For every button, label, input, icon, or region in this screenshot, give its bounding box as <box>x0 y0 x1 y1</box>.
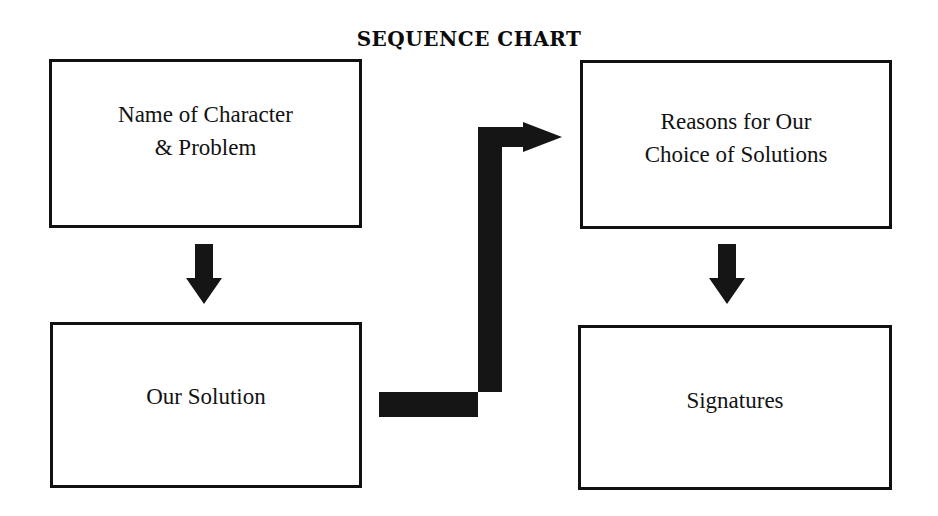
sequence-chart-canvas: SEQUENCE CHART Name of Character & Probl… <box>0 0 938 516</box>
node-box-character-problem: Name of Character & Problem <box>49 59 362 228</box>
node-box-signatures: Signatures <box>578 325 892 490</box>
node-box-reasons-for-choice: Reasons for Our Choice of Solutions <box>580 60 892 229</box>
node-label-signatures: Signatures <box>676 385 793 418</box>
arrow-elbow-solution-to-reasons-icon <box>375 118 567 422</box>
arrow-elbow-shape <box>379 122 562 417</box>
arrow-down-shape <box>709 244 745 304</box>
arrow-down-shape <box>186 244 222 304</box>
arrow-down-character-to-solution-icon <box>183 244 225 306</box>
page-title: SEQUENCE CHART <box>0 27 938 51</box>
node-label-reasons-for-choice: Reasons for Our Choice of Solutions <box>635 106 838 171</box>
node-label-character-problem: Name of Character & Problem <box>108 99 303 164</box>
node-label-our-solution: Our Solution <box>136 381 275 414</box>
arrow-down-reasons-to-signatures-icon <box>706 244 748 306</box>
node-box-our-solution: Our Solution <box>50 322 362 488</box>
